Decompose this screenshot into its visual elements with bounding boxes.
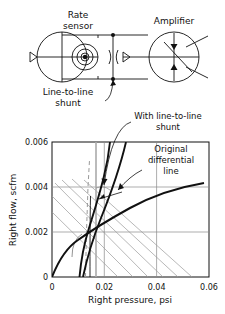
amplifier-arrow-down — [171, 44, 178, 50]
constant-load-lines — [52, 179, 192, 277]
annotation-original-line3: line — [163, 166, 178, 176]
amplifier-arrow-up — [171, 64, 178, 70]
y-tick-label-0: 0 — [43, 273, 48, 282]
shunt-label-line1: Line-to-line — [43, 87, 94, 97]
x-axis-ticks: 0 0.02 0.04 0.06 — [49, 283, 217, 292]
rate-sensor-label-line2: sensor — [63, 21, 93, 31]
annotation-original-line: Original differential line — [99, 144, 194, 199]
shunt-right-arc — [116, 50, 118, 64]
annotation-original-line2: differential — [148, 155, 194, 165]
x-tick-label-0.04: 0.04 — [148, 283, 166, 292]
schematic-diagram: Rate sensor Amplifier — [30, 10, 208, 108]
y-axis-ticks: 0.006 0.004 0.002 0 — [25, 138, 48, 282]
figure-root: Rate sensor Amplifier — [0, 0, 225, 314]
y-axis-label: Right flow, scfm — [8, 174, 18, 246]
annotation-with-shunt-line2: shunt — [156, 122, 181, 132]
shunt-left-arc — [109, 50, 111, 64]
rate-sensor-inlet-arrow — [30, 52, 37, 62]
shunt-leader-arrowhead — [110, 80, 116, 86]
rate-sensor-symbol — [30, 32, 98, 82]
chart: 0.006 0.004 0.002 0 0 0.02 0.04 0.06 Rig… — [8, 111, 218, 305]
amplifier-symbol — [123, 32, 208, 82]
y-tick-label-0.004: 0.004 — [25, 183, 48, 192]
auxiliary-steep-line — [90, 196, 91, 277]
annotation-with-shunt-line1: With line-to-line — [134, 111, 202, 121]
y-tick-label-0.006: 0.006 — [25, 138, 48, 147]
x-axis-label: Right pressure, psi — [88, 295, 172, 305]
annotation-original-line1: Original — [154, 144, 187, 154]
shunt-label-line2: shunt — [55, 98, 81, 108]
line-to-line-shunt-symbol — [109, 50, 118, 64]
x-tick-label-0.06: 0.06 — [200, 283, 218, 292]
rate-sensor-label-line1: Rate — [68, 10, 89, 20]
figure-svg: Rate sensor Amplifier — [0, 0, 225, 314]
sensor-characteristic-curve — [52, 183, 204, 277]
x-tick-label-0: 0 — [49, 283, 54, 292]
junction-dot-top — [111, 33, 115, 37]
amplifier-label: Amplifier — [154, 16, 195, 26]
x-tick-label-0.02: 0.02 — [95, 283, 113, 292]
y-tick-label-0.002: 0.002 — [25, 228, 48, 237]
